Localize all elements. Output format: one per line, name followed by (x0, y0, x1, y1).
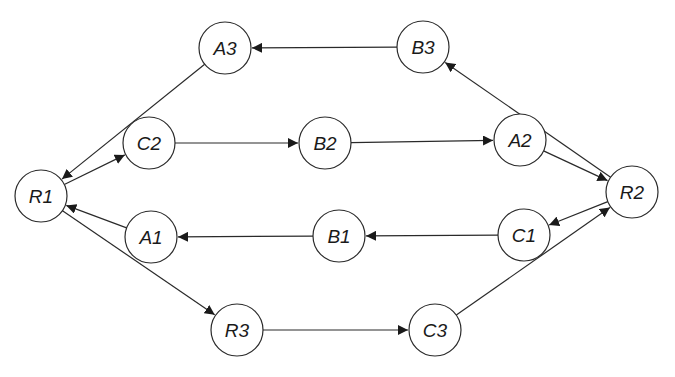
arrow-line (66, 205, 126, 228)
node-c3: C3 (409, 304, 461, 356)
arrow-line (252, 47, 397, 48)
node-label: R1 (29, 186, 53, 207)
arrow-line (549, 202, 608, 225)
edge-r2-to-c1 (549, 202, 608, 225)
node-label: R2 (620, 182, 645, 203)
node-label: R3 (225, 320, 250, 341)
node-label: B1 (327, 226, 350, 247)
nodes-layer: R1A3B3C2B2A2R2A1B1C1R3C3 (15, 21, 658, 356)
edge-b1-to-a1 (178, 236, 313, 237)
node-a3: A3 (199, 22, 251, 74)
node-a2: A2 (494, 114, 546, 166)
node-c2: C2 (123, 117, 175, 169)
edge-a1-to-r1 (66, 205, 126, 228)
arrow-line (544, 151, 608, 181)
node-label: C2 (137, 133, 162, 154)
node-label: C3 (423, 320, 448, 341)
node-r2: R2 (606, 166, 658, 218)
edge-c1-to-b1 (366, 235, 498, 236)
edge-a2-to-r2 (544, 151, 608, 181)
node-b1: B1 (313, 210, 365, 262)
node-a1: A1 (125, 211, 177, 263)
node-c1: C1 (498, 209, 550, 261)
node-r3: R3 (211, 304, 263, 356)
arrow-line (351, 140, 493, 142)
node-label: A3 (212, 38, 237, 59)
node-label: B2 (313, 133, 337, 154)
node-label: A1 (138, 227, 162, 248)
arrow-line (366, 235, 498, 236)
node-b3: B3 (397, 21, 449, 73)
node-b2: B2 (299, 117, 351, 169)
edges-layer (62, 47, 611, 330)
node-label: B3 (411, 37, 435, 58)
arrow-line (178, 236, 313, 237)
node-label: A2 (507, 130, 532, 151)
edge-b2-to-a2 (351, 140, 493, 142)
edge-b3-to-a3 (252, 47, 397, 48)
node-label: C1 (512, 225, 536, 246)
node-r1: R1 (15, 170, 67, 222)
graph-diagram: R1A3B3C2B2A2R2A1B1C1R3C3 (0, 0, 675, 377)
